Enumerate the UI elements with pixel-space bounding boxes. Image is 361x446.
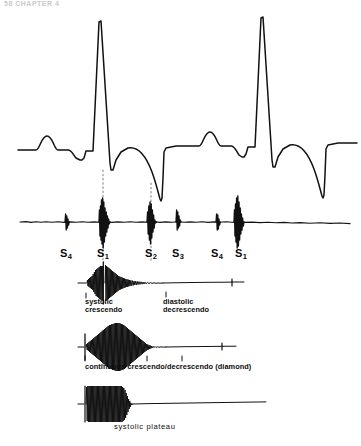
- phonocardiogram-trace: [20, 196, 350, 248]
- arterial-pulse-ecg-trace: [18, 17, 357, 201]
- caption-decrescendo: decrescendo: [163, 306, 209, 314]
- heart-sound-label-s2: S2: [145, 248, 157, 259]
- waveform-canvas: [0, 0, 361, 446]
- figure-root: 58 CHAPTER 4: [0, 0, 361, 446]
- heart-sound-label-s1-first: S1: [97, 248, 109, 259]
- caption-crescendo: crescendo: [85, 306, 122, 314]
- heart-sound-label-s4-second: S4: [211, 248, 223, 259]
- caption-systolic-plateau: systolic plateau: [114, 423, 176, 431]
- murmur-trace-plateau: [78, 386, 266, 422]
- heart-sound-label-s4-first: S4: [60, 248, 72, 259]
- heart-sound-label-s1-second: S1: [235, 248, 247, 259]
- heart-sound-label-s3: S3: [172, 248, 184, 259]
- caption-continuous-diamond: continuous crescendo/decrescendo (diamon…: [85, 363, 251, 371]
